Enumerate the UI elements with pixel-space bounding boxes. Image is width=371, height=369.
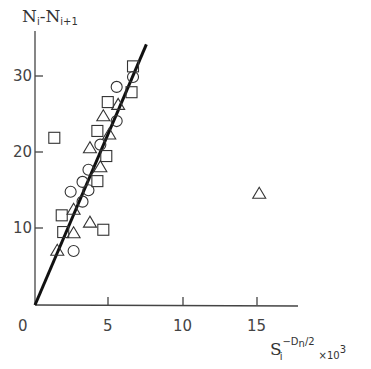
- y-tick-label-20: 20: [13, 143, 32, 161]
- scatter-chart: 0 5 10 15 10 20 30 Ni-Ni+1 Si−Dn/2×103: [0, 0, 371, 369]
- axes: [35, 31, 298, 306]
- svg-text:Ni-Ni+1: Ni-Ni+1: [22, 6, 78, 27]
- square-marker: [101, 151, 112, 162]
- y-label-sub2: i+1: [60, 16, 78, 27]
- circle-marker: [65, 186, 76, 197]
- x-tick-label-10: 10: [173, 317, 192, 335]
- data-points: [49, 61, 266, 257]
- x-label-mult-sup: 3: [340, 344, 346, 355]
- x-label-sub: i: [280, 351, 283, 362]
- x-label-sup: −D: [282, 336, 298, 347]
- x-axis-title: Si−Dn/2×103: [270, 336, 346, 362]
- y-tick-label-10: 10: [13, 219, 32, 237]
- square-marker: [49, 132, 60, 143]
- y-label-dash: -N: [40, 6, 61, 26]
- square-marker: [102, 97, 113, 108]
- x-label-sup-tail: /2: [305, 336, 315, 347]
- y-label-n: N: [22, 6, 37, 26]
- square-marker: [56, 210, 67, 221]
- square-marker: [98, 224, 109, 235]
- y-tick-label-30: 30: [13, 67, 32, 85]
- circle-marker: [68, 246, 79, 257]
- square-marker: [92, 125, 103, 136]
- y-axis-title: Ni-Ni+1: [22, 6, 78, 27]
- circle-marker: [111, 81, 122, 92]
- triangle-marker: [253, 187, 266, 198]
- svg-text:Si−Dn/2×103: Si−Dn/2×103: [270, 336, 346, 362]
- x-tick-label-15: 15: [247, 317, 266, 335]
- x-tick-label-5: 5: [103, 317, 113, 335]
- x-axis: [35, 305, 298, 306]
- x-label-mult: ×10: [319, 350, 340, 361]
- square-marker: [92, 176, 103, 187]
- triangle-marker: [83, 216, 96, 227]
- x-tick-label-0: 0: [18, 317, 28, 335]
- triangle-marker: [97, 110, 110, 121]
